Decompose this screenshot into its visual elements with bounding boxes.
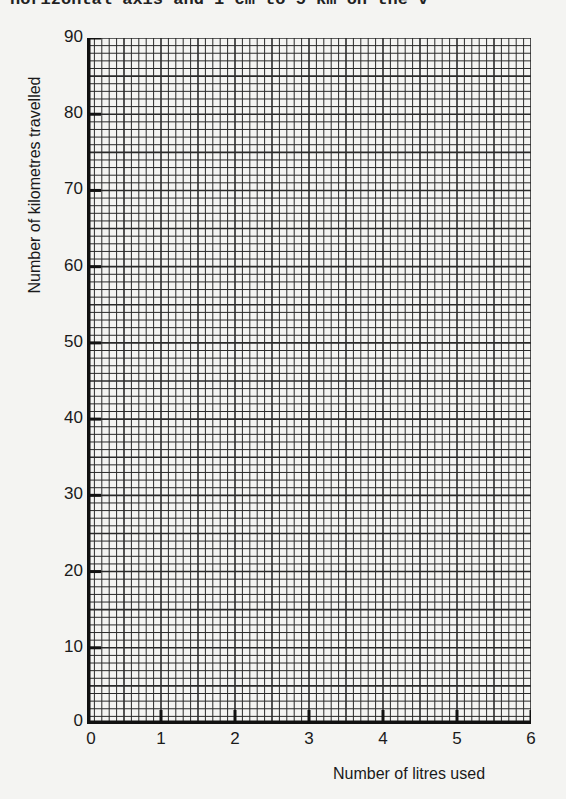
grid-lines xyxy=(87,38,531,724)
x-tick-label: 0 xyxy=(81,729,101,749)
graph-paper-plot-area xyxy=(87,38,531,724)
x-tick-label: 4 xyxy=(373,729,393,749)
y-tick-label: 20 xyxy=(53,561,83,581)
y-tick-label: 10 xyxy=(53,637,83,657)
y-tick-label: 40 xyxy=(53,408,83,428)
x-tick-label: 6 xyxy=(521,729,541,749)
y-tick-label: 60 xyxy=(53,256,83,276)
y-tick-label: 70 xyxy=(53,179,83,199)
y-tick-label: 50 xyxy=(53,332,83,352)
y-tick-label: 80 xyxy=(53,103,83,123)
x-tick-label: 3 xyxy=(299,729,319,749)
y-tick-label: 30 xyxy=(53,484,83,504)
x-tick-label: 2 xyxy=(225,729,245,749)
x-tick-label: 1 xyxy=(151,729,171,749)
x-tick-label: 5 xyxy=(447,729,467,749)
x-axis-title: Number of litres used xyxy=(333,765,485,783)
cut-off-instruction-text: horizontal axis and 1 cm to 5 km on the … xyxy=(10,0,428,9)
y-tick-label: 0 xyxy=(53,711,83,731)
y-tick-label: 90 xyxy=(53,27,83,47)
y-axis-title: Number of kilometres travelled xyxy=(26,77,44,294)
